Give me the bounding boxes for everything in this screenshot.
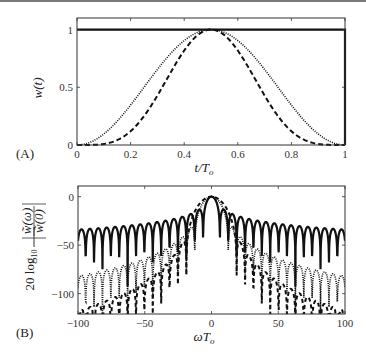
x-tick-label: −50 (136, 317, 154, 329)
x-tick-label: 0 (209, 317, 215, 329)
x-tick-label: 0.6 (231, 148, 245, 160)
series-hann (77, 30, 345, 145)
panel-b-curves (78, 197, 345, 314)
x-tick-label: 0 (74, 148, 80, 160)
panel-a: 00.20.40.60.8100.51 w(t) t/To (A) (16, 18, 348, 177)
panel-b: −100−500501000−50−100 20 log10 w̃(ω) w̃(… (16, 186, 354, 346)
panel-a-label: (A) (16, 146, 34, 161)
y-tick-label: −50 (57, 239, 75, 251)
y-tick-label: 0 (69, 191, 75, 203)
x-tick-label: 0.8 (285, 148, 299, 160)
y-tick-label: 1 (68, 24, 74, 36)
panel-a-ylabel: w(t) (30, 78, 45, 99)
svg-text:w̃(0): w̃(0) (31, 209, 46, 233)
panel-a-axes-frame (77, 18, 345, 145)
panel-b-label: (B) (16, 325, 33, 340)
panel-b-xlabel: ωTo (194, 329, 215, 346)
x-tick-label: −100 (67, 317, 90, 329)
figure: 00.20.40.60.8100.51 w(t) t/To (A) −100−5… (0, 0, 366, 358)
x-tick-label: 1 (342, 148, 348, 160)
panel-a-xlabel: t/To (195, 160, 214, 177)
panel-b-ticks: −100−500501000−50−100 (51, 186, 353, 329)
x-tick-label: 0.2 (124, 148, 138, 160)
y-tick-label: 0 (68, 139, 74, 151)
x-tick-label: 100 (337, 317, 354, 329)
series-sin4 (77, 30, 345, 145)
series-rectangular (77, 30, 345, 145)
y-tick-label: 0.5 (59, 81, 73, 93)
panel-a-ticks: 00.20.40.60.8100.51 (59, 18, 348, 160)
panel-a-curves (77, 30, 345, 145)
x-tick-label: 50 (273, 317, 285, 329)
svg-text:20 log10: 20 log10 (22, 250, 39, 291)
y-tick-label: −100 (51, 288, 74, 300)
panel-b-ylabel: 20 log10 w̃(ω) w̃(0) (19, 204, 46, 290)
x-tick-label: 0.4 (177, 148, 191, 160)
